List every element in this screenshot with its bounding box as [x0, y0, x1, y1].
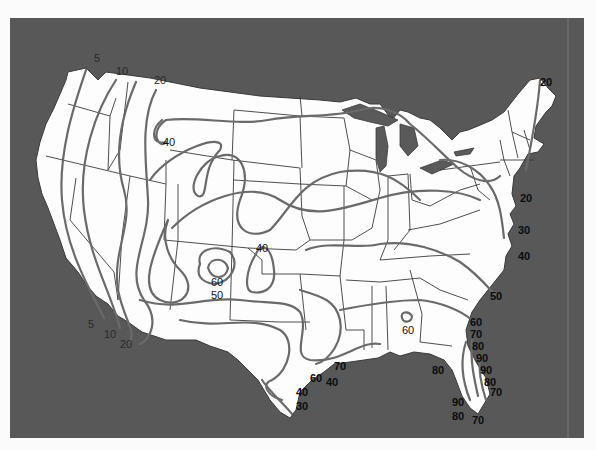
contour-label: 10 [104, 328, 116, 340]
contour-label: 40 [163, 136, 175, 148]
contour-label: 70 [490, 386, 502, 398]
contour-label: 20 [120, 338, 132, 350]
contour-label: 40 [518, 250, 530, 262]
contour-label: 5 [88, 318, 94, 330]
contour-label: 60 [402, 324, 414, 336]
contour-label: 80 [432, 364, 444, 376]
contour-label: 30 [296, 400, 308, 412]
contour-label: 40 [326, 376, 338, 388]
contour-label: 50 [490, 290, 502, 302]
contour-label: 70 [472, 414, 484, 426]
contour-label: 20 [154, 74, 166, 86]
contour-label: 40 [296, 386, 308, 398]
contour-label: 60 [470, 316, 482, 328]
contour-label: 60 [310, 372, 322, 384]
contour-label: 70 [334, 360, 346, 372]
contour-label: 20 [540, 76, 552, 88]
contour-label: 5 [94, 52, 100, 64]
contour-label: 90 [476, 352, 488, 364]
contour-label: 90 [452, 396, 464, 408]
contour-label: 20 [520, 192, 532, 204]
contour-label: 40 [256, 242, 268, 254]
contour-label: 60 [211, 276, 223, 288]
contour-label: 10 [116, 65, 128, 77]
contour-label: 90 [480, 364, 492, 376]
contour-label: 70 [470, 328, 482, 340]
contour-label: 50 [211, 289, 223, 301]
isoline-map: 5 10 20 40 20 20 30 40 40 60 50 5 10 20 … [0, 0, 596, 450]
contour-label: 80 [452, 410, 464, 422]
contour-label: 30 [518, 224, 530, 236]
map-canvas: 5 10 20 40 20 20 30 40 40 60 50 5 10 20 … [0, 0, 596, 450]
contour-label: 80 [472, 340, 484, 352]
